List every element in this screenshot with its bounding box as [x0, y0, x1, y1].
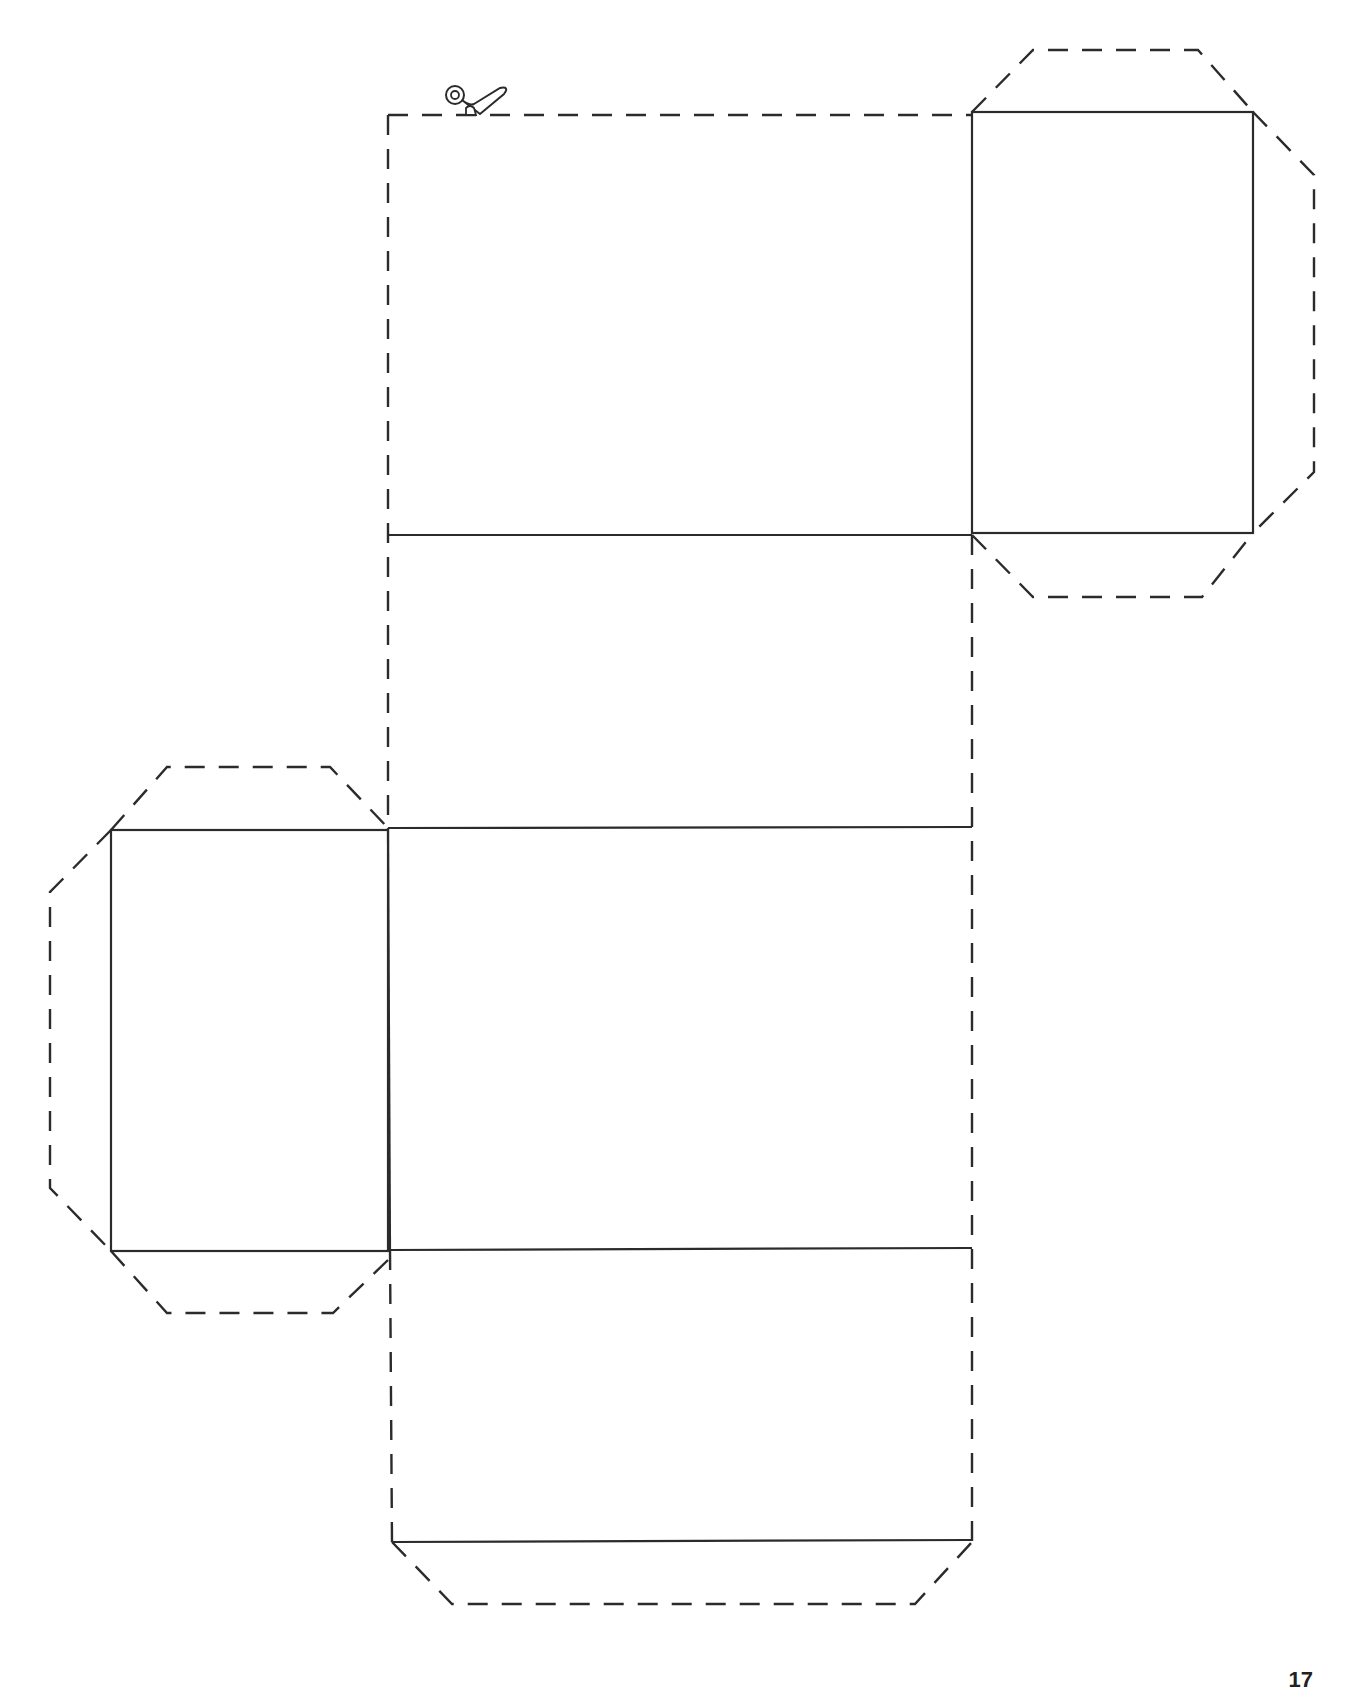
fold-line-2	[388, 827, 972, 828]
page-number: 17	[1289, 1667, 1313, 1691]
main-column	[388, 115, 972, 1542]
fold-line-3	[390, 1248, 972, 1250]
left-cut-line-lower	[390, 1250, 392, 1542]
left-side-panel	[50, 767, 388, 1313]
left-outer-flap	[50, 830, 111, 1251]
scissors-icon	[446, 86, 506, 115]
fold-line-4	[392, 1540, 972, 1542]
bottom-flap	[392, 1542, 972, 1604]
right-outer-flap	[1253, 112, 1314, 533]
right-top-flap	[972, 50, 1253, 112]
left-square	[111, 830, 388, 1251]
right-square	[972, 112, 1253, 533]
left-bottom-flap	[111, 1251, 388, 1313]
right-side-panel	[972, 50, 1314, 597]
left-top-flap	[111, 767, 388, 830]
right-bottom-flap	[972, 533, 1253, 597]
